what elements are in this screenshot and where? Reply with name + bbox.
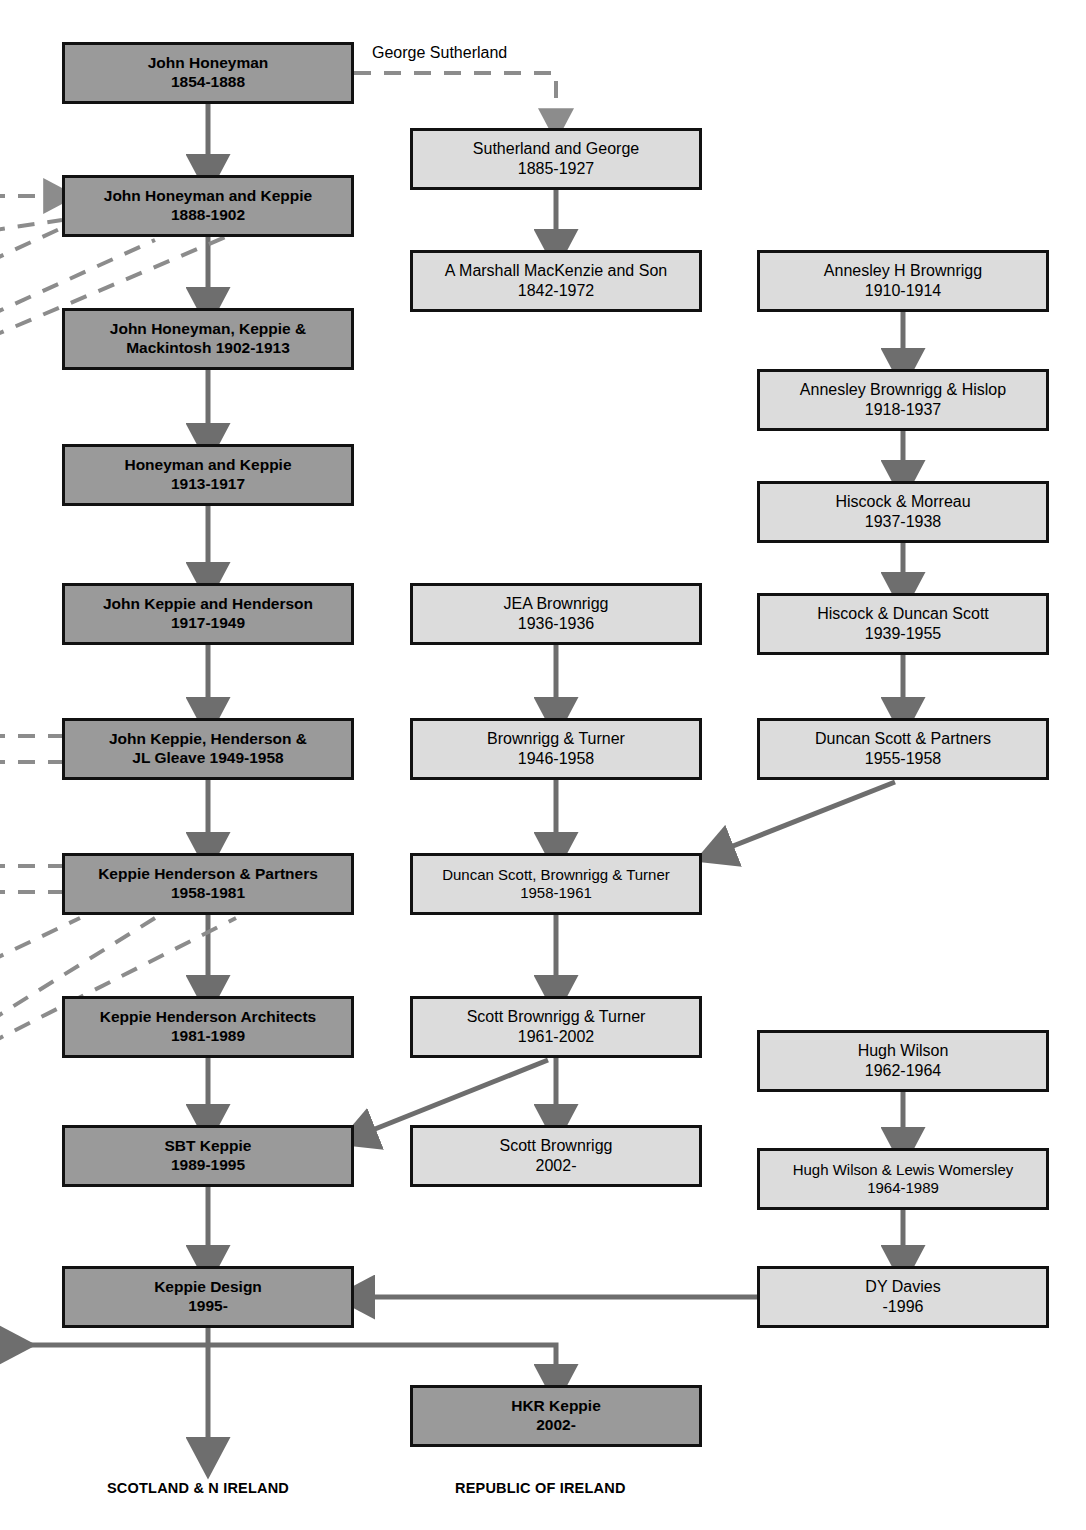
node-line-2: 1958-1961 — [520, 884, 592, 902]
connector-honeyman-to-sutherland-george — [354, 73, 556, 113]
node-hiscock-and-duncan-scott[interactable]: Hiscock & Duncan Scott 1939-1955 — [757, 593, 1049, 655]
node-line-1: John Honeyman, Keppie & — [110, 320, 306, 339]
node-sutherland-and-george[interactable]: Sutherland and George 1885-1927 — [410, 128, 702, 190]
node-line-1: Sutherland and George — [473, 139, 639, 159]
node-hugh-wilson[interactable]: Hugh Wilson 1962-1964 — [757, 1030, 1049, 1092]
node-hugh-wilson-and-lewis-womersley[interactable]: Hugh Wilson & Lewis Womersley 1964-1989 — [757, 1148, 1049, 1210]
node-line-2: 1939-1955 — [865, 624, 942, 644]
node-line-2: 1913-1917 — [171, 475, 245, 494]
connector-offpage-dashed-fan-a — [0, 240, 155, 316]
node-line-1: John Honeyman — [148, 54, 269, 73]
connector-offpage-dashed-fan-b — [0, 226, 66, 262]
node-line-2: 1885-1927 — [518, 159, 595, 179]
node-line-2: 1958-1981 — [171, 884, 245, 903]
node-line-1: Annesley Brownrigg & Hislop — [800, 380, 1006, 400]
node-john-keppie-henderson-jl-gleave[interactable]: John Keppie, Henderson & JL Gleave 1949-… — [62, 718, 354, 780]
connector-offpage-dashed-from-khp-b — [0, 918, 80, 962]
node-line-2: 1910-1914 — [865, 281, 942, 301]
node-line-1: Hiscock & Duncan Scott — [817, 604, 989, 624]
node-line-2: 1936-1936 — [518, 614, 595, 634]
node-line-2: 1917-1949 — [171, 614, 245, 633]
node-line-1: John Keppie and Henderson — [103, 595, 313, 614]
node-line-2: 1918-1937 — [865, 400, 942, 420]
node-hkr-keppie[interactable]: HKR Keppie 2002- — [410, 1385, 702, 1447]
node-keppie-design[interactable]: Keppie Design 1995- — [62, 1266, 354, 1328]
node-line-1: Hiscock & Morreau — [835, 492, 970, 512]
node-keppie-henderson-and-partners[interactable]: Keppie Henderson & Partners 1958-1981 — [62, 853, 354, 915]
node-line-2: 1989-1995 — [171, 1156, 245, 1175]
node-john-honeyman-and-keppie[interactable]: John Honeyman and Keppie 1888-1902 — [62, 175, 354, 237]
node-line-2: 1946-1958 — [518, 749, 595, 769]
node-line-2: 2002- — [536, 1416, 576, 1435]
node-line-2: 1937-1938 — [865, 512, 942, 532]
node-line-2: 1962-1964 — [865, 1061, 942, 1081]
node-line-1: John Keppie, Henderson & — [109, 730, 307, 749]
node-jea-brownrigg[interactable]: JEA Brownrigg 1936-1936 — [410, 583, 702, 645]
node-line-1: Keppie Henderson Architects — [100, 1008, 316, 1027]
region-label-scotland-n-ireland: SCOTLAND & N IRELAND — [107, 1480, 289, 1496]
node-scott-brownrigg[interactable]: Scott Brownrigg 2002- — [410, 1125, 702, 1187]
node-hiscock-and-morreau[interactable]: Hiscock & Morreau 1937-1938 — [757, 481, 1049, 543]
node-line-1: John Honeyman and Keppie — [104, 187, 312, 206]
connector-offpage-dashed-into-honeyman-keppie-2 — [0, 220, 62, 231]
node-line-2: 1955-1958 — [865, 749, 942, 769]
node-line-1: A Marshall MacKenzie and Son — [445, 261, 667, 281]
node-line-1: Duncan Scott, Brownrigg & Turner — [442, 866, 670, 884]
node-line-1: Duncan Scott & Partners — [815, 729, 991, 749]
node-scott-brownrigg-and-turner[interactable]: Scott Brownrigg & Turner 1961-2002 — [410, 996, 702, 1058]
node-keppie-henderson-architects[interactable]: Keppie Henderson Architects 1981-1989 — [62, 996, 354, 1058]
node-line-1: Annesley H Brownrigg — [824, 261, 982, 281]
node-line-1: HKR Keppie — [511, 1397, 601, 1416]
node-annesley-h-brownrigg[interactable]: Annesley H Brownrigg 1910-1914 — [757, 250, 1049, 312]
node-line-2: 1995- — [188, 1297, 228, 1316]
node-line-1: JEA Brownrigg — [504, 594, 609, 614]
node-line-1: Honeyman and Keppie — [124, 456, 291, 475]
region-label-republic-of-ireland: REPUBLIC OF IRELAND — [455, 1480, 626, 1496]
node-duncan-scott-and-partners[interactable]: Duncan Scott & Partners 1955-1958 — [757, 718, 1049, 780]
node-line-1: Keppie Design — [154, 1278, 262, 1297]
node-line-1: Hugh Wilson & Lewis Womersley — [793, 1161, 1014, 1179]
node-sbt-keppie[interactable]: SBT Keppie 1989-1995 — [62, 1125, 354, 1187]
node-line-2: -1996 — [883, 1297, 924, 1317]
node-honeyman-and-keppie[interactable]: Honeyman and Keppie 1913-1917 — [62, 444, 354, 506]
node-john-honeyman-keppie-mackintosh[interactable]: John Honeyman, Keppie & Mackintosh 1902-… — [62, 308, 354, 370]
node-john-keppie-and-henderson[interactable]: John Keppie and Henderson 1917-1949 — [62, 583, 354, 645]
connector-sbt-turner-to-sbt-keppie — [370, 1060, 548, 1131]
node-brownrigg-and-turner[interactable]: Brownrigg & Turner 1946-1958 — [410, 718, 702, 780]
node-annesley-brownrigg-and-hislop[interactable]: Annesley Brownrigg & Hislop 1918-1937 — [757, 369, 1049, 431]
edge-label-george-sutherland: George Sutherland — [372, 44, 507, 62]
connector-offpage-to-hkr-keppie — [0, 1345, 556, 1370]
node-line-2: 1854-1888 — [171, 73, 245, 92]
node-line-2: JL Gleave 1949-1958 — [132, 749, 283, 768]
node-line-1: Hugh Wilson — [858, 1041, 949, 1061]
node-line-2: Mackintosh 1902-1913 — [126, 339, 290, 358]
node-line-1: Keppie Henderson & Partners — [98, 865, 318, 884]
node-dy-davies[interactable]: DY Davies -1996 — [757, 1266, 1049, 1328]
node-a-marshall-mackenzie-and-son[interactable]: A Marshall MacKenzie and Son 1842-1972 — [410, 250, 702, 312]
node-line-2: 1981-1989 — [171, 1027, 245, 1046]
node-line-1: SBT Keppie — [165, 1137, 252, 1156]
node-duncan-scott-brownrigg-turner[interactable]: Duncan Scott, Brownrigg & Turner 1958-19… — [410, 853, 702, 915]
node-line-1: Scott Brownrigg — [500, 1136, 613, 1156]
node-line-2: 1842-1972 — [518, 281, 595, 301]
connector-ds-partners-to-dsbt — [728, 782, 895, 848]
node-john-honeyman[interactable]: John Honeyman 1854-1888 — [62, 42, 354, 104]
node-line-1: DY Davies — [865, 1277, 940, 1297]
node-line-2: 1888-1902 — [171, 206, 245, 225]
node-line-2: 1961-2002 — [518, 1027, 595, 1047]
diagram-canvas: John Honeyman 1854-1888 John Honeyman an… — [0, 0, 1086, 1530]
node-line-2: 2002- — [536, 1156, 577, 1176]
node-line-1: Brownrigg & Turner — [487, 729, 625, 749]
node-line-2: 1964-1989 — [867, 1179, 939, 1197]
node-line-1: Scott Brownrigg & Turner — [467, 1007, 646, 1027]
